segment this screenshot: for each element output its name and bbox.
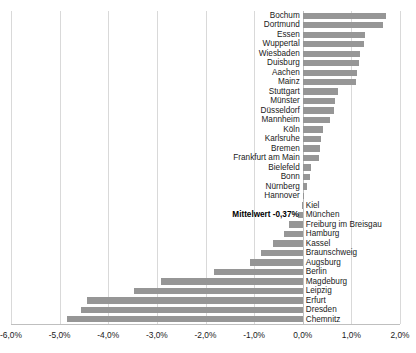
bar bbox=[303, 22, 384, 28]
bar bbox=[87, 297, 303, 303]
bar bbox=[303, 88, 338, 94]
category-label: Mainz bbox=[0, 77, 300, 86]
category-label: Dresden bbox=[306, 305, 403, 314]
bar bbox=[261, 250, 303, 256]
category-label: Chemnitz bbox=[306, 315, 403, 324]
category-label: Leipzig bbox=[306, 286, 403, 295]
bar bbox=[67, 316, 302, 322]
bar bbox=[303, 126, 323, 132]
category-label: Hannover bbox=[0, 191, 300, 200]
bar bbox=[161, 278, 303, 284]
category-label: Nürnberg bbox=[0, 182, 300, 191]
bar bbox=[303, 174, 310, 180]
bar bbox=[214, 269, 302, 275]
category-label: Magdeburg bbox=[306, 277, 403, 286]
bar bbox=[303, 51, 360, 57]
category-label: München bbox=[306, 210, 403, 219]
category-label: Münster bbox=[0, 96, 300, 105]
bar bbox=[303, 41, 364, 47]
x-axis-ticks: -6,0%-5,0%-4,0%-3,0%-2,0%-1,0%0,0%1,0%2,… bbox=[0, 330, 416, 346]
category-label: Stuttgart bbox=[0, 87, 300, 96]
bar bbox=[303, 164, 311, 170]
bar bbox=[303, 136, 321, 142]
bar bbox=[303, 79, 356, 85]
bar bbox=[303, 155, 319, 161]
bar bbox=[303, 107, 335, 113]
category-label: Kiel bbox=[306, 201, 403, 210]
chart-container: BochumDortmundEssenWuppertalWiesbadenDui… bbox=[0, 0, 416, 353]
x-tick-label: -1,0% bbox=[243, 330, 265, 340]
category-label: Düsseldorf bbox=[0, 106, 300, 115]
x-tick-label: -4,0% bbox=[97, 330, 119, 340]
category-label: Augsburg bbox=[306, 258, 403, 267]
x-tick-label: 2,0% bbox=[390, 330, 409, 340]
category-label: Hamburg bbox=[306, 229, 403, 238]
bar bbox=[303, 117, 330, 123]
mean-annotation: Mittelwert -0,37% bbox=[0, 210, 299, 219]
bar bbox=[303, 70, 357, 76]
bar bbox=[134, 288, 303, 294]
bar bbox=[303, 183, 307, 189]
bar bbox=[289, 221, 303, 227]
bar bbox=[303, 13, 387, 19]
x-tick-label: -2,0% bbox=[195, 330, 217, 340]
bar bbox=[303, 193, 304, 199]
bar bbox=[303, 60, 359, 66]
x-tick-label: 1,0% bbox=[342, 330, 361, 340]
category-label: Freiburg im Breisgau bbox=[306, 220, 403, 229]
bar bbox=[273, 240, 303, 246]
bar bbox=[284, 231, 302, 237]
x-tick-label: -6,0% bbox=[0, 330, 22, 340]
category-label: Bonn bbox=[0, 172, 300, 181]
category-label: Erfurt bbox=[306, 296, 403, 305]
category-label: Wiesbaden bbox=[0, 49, 300, 58]
category-label: Duisburg bbox=[0, 58, 300, 67]
x-tick-label: 0,0% bbox=[293, 330, 312, 340]
category-label: Dortmund bbox=[0, 20, 300, 29]
category-label: Berlin bbox=[306, 267, 403, 276]
bar bbox=[81, 307, 303, 313]
bar bbox=[250, 259, 303, 265]
category-label: Bielefeld bbox=[0, 163, 300, 172]
category-label: Essen bbox=[0, 30, 300, 39]
x-tick-label: -3,0% bbox=[146, 330, 168, 340]
bar bbox=[303, 145, 320, 151]
bar bbox=[303, 98, 336, 104]
category-label: Aachen bbox=[0, 68, 300, 77]
bar bbox=[302, 202, 303, 208]
category-label: Mannheim bbox=[0, 115, 300, 124]
category-label: Kassel bbox=[306, 239, 403, 248]
category-label: Braunschweig bbox=[306, 248, 403, 257]
bar bbox=[303, 32, 365, 38]
category-label: Karlsruhe bbox=[0, 134, 300, 143]
category-label: Wuppertal bbox=[0, 39, 300, 48]
category-label: Bremen bbox=[0, 144, 300, 153]
x-tick-label: -5,0% bbox=[49, 330, 71, 340]
category-label: Frankfurt am Main bbox=[0, 153, 300, 162]
category-label: Bochum bbox=[0, 11, 300, 20]
category-label: Köln bbox=[0, 125, 300, 134]
x-axis-line bbox=[11, 324, 400, 325]
